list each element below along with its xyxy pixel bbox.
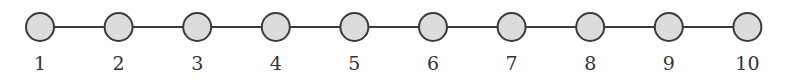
node-7: [498, 13, 526, 41]
node-6: [419, 13, 447, 41]
node-label-8: 8: [584, 52, 596, 74]
path-graph: 12345678910: [0, 0, 793, 80]
node-label-3: 3: [191, 52, 203, 74]
node-9: [655, 13, 683, 41]
node-label-10: 10: [735, 52, 759, 74]
node-3: [183, 13, 211, 41]
node-5: [340, 13, 368, 41]
node-8: [576, 13, 604, 41]
node-label-2: 2: [113, 52, 125, 74]
node-label-1: 1: [34, 52, 46, 74]
node-label-9: 9: [663, 52, 675, 74]
node-label-4: 4: [270, 52, 282, 74]
node-10: [733, 13, 761, 41]
node-label-7: 7: [506, 52, 518, 74]
node-2: [105, 13, 133, 41]
node-label-5: 5: [348, 52, 360, 74]
node-label-6: 6: [427, 52, 439, 74]
node-4: [262, 13, 290, 41]
node-labels: 12345678910: [34, 52, 760, 74]
node-1: [26, 13, 54, 41]
